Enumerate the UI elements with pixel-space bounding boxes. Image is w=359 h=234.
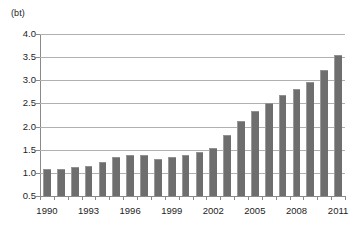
x-axis-tick-mark xyxy=(82,196,83,200)
bar xyxy=(251,111,259,196)
y-axis-tick-mark xyxy=(36,57,40,58)
y-axis-tick-mark xyxy=(36,127,40,128)
x-axis-tick-mark xyxy=(206,196,207,200)
bar xyxy=(209,148,217,196)
bar xyxy=(168,157,176,196)
y-axis-tick-label: 3.0 xyxy=(4,75,36,85)
x-axis-tick-mark xyxy=(137,196,138,200)
bar xyxy=(279,95,287,196)
bar xyxy=(126,155,134,196)
bar xyxy=(99,162,107,196)
bar xyxy=(223,135,231,196)
x-axis-tick-mark xyxy=(165,196,166,200)
bar xyxy=(293,89,301,196)
x-axis-tick-mark xyxy=(54,196,55,200)
x-axis-tick-label: 2002 xyxy=(203,205,224,216)
gridline xyxy=(40,34,345,35)
x-axis-tick-label: 1996 xyxy=(120,205,141,216)
x-axis-tick-label: 2005 xyxy=(244,205,265,216)
y-axis-tick-mark xyxy=(36,103,40,104)
x-axis-tick-mark xyxy=(345,196,346,200)
x-axis-tick-label: 2008 xyxy=(286,205,307,216)
y-axis-tick-label: 1.5 xyxy=(4,145,36,155)
y-axis-tick-mark xyxy=(36,80,40,81)
x-axis-tick-mark xyxy=(193,196,194,200)
y-axis-tick-label: 3.5 xyxy=(4,52,36,62)
x-axis-tick-label: 1993 xyxy=(78,205,99,216)
bar xyxy=(265,103,273,196)
y-axis-tick-mark xyxy=(36,34,40,35)
x-axis-tick-mark xyxy=(220,196,221,200)
x-axis-tick-mark xyxy=(179,196,180,200)
x-axis-tick-mark xyxy=(317,196,318,200)
x-axis-tick-mark xyxy=(123,196,124,200)
bar xyxy=(85,166,93,196)
bar xyxy=(43,169,51,196)
bar xyxy=(71,167,79,196)
x-axis-tick-mark xyxy=(276,196,277,200)
gridline xyxy=(40,80,345,81)
y-axis-tick-label: 2.0 xyxy=(4,122,36,132)
bar xyxy=(306,82,314,196)
x-axis-tick-label: 2011 xyxy=(328,205,348,216)
y-axis-tick-mark xyxy=(36,150,40,151)
x-axis-tick-mark xyxy=(303,196,304,200)
bar xyxy=(140,155,148,196)
bar xyxy=(182,155,190,196)
bar xyxy=(237,121,245,196)
x-axis-tick-label: 1999 xyxy=(161,205,182,216)
bar xyxy=(334,55,342,196)
y-axis-tick-mark xyxy=(36,173,40,174)
y-axis-tick-label: 4.0 xyxy=(4,29,36,39)
x-axis-tick-mark xyxy=(331,196,332,200)
bar xyxy=(112,157,120,196)
x-axis-tick-mark xyxy=(40,196,41,200)
x-axis-tick-mark xyxy=(95,196,96,200)
x-axis-tick-mark xyxy=(109,196,110,200)
bar xyxy=(320,70,328,196)
x-axis-tick-mark xyxy=(234,196,235,200)
x-axis-tick-mark xyxy=(262,196,263,200)
x-axis-tick-mark xyxy=(151,196,152,200)
y-axis-tick-labels: 4.03.53.02.52.01.51.00.5 xyxy=(0,0,36,234)
x-axis-tick-mark xyxy=(248,196,249,200)
x-axis-tick-label: 1990 xyxy=(36,205,57,216)
bar xyxy=(196,152,204,196)
plot-area xyxy=(40,34,345,196)
x-axis-tick-mark xyxy=(290,196,291,200)
x-axis-tick-mark xyxy=(68,196,69,200)
y-axis-tick-label: 1.0 xyxy=(4,168,36,178)
y-axis-tick-label: 0.5 xyxy=(4,191,36,201)
bar xyxy=(57,169,65,196)
gridline xyxy=(40,57,345,58)
bar xyxy=(154,159,162,196)
y-axis-tick-label: 2.5 xyxy=(4,98,36,108)
bar-chart: (bt) 4.03.53.02.52.01.51.00.5 1990199319… xyxy=(0,0,359,234)
